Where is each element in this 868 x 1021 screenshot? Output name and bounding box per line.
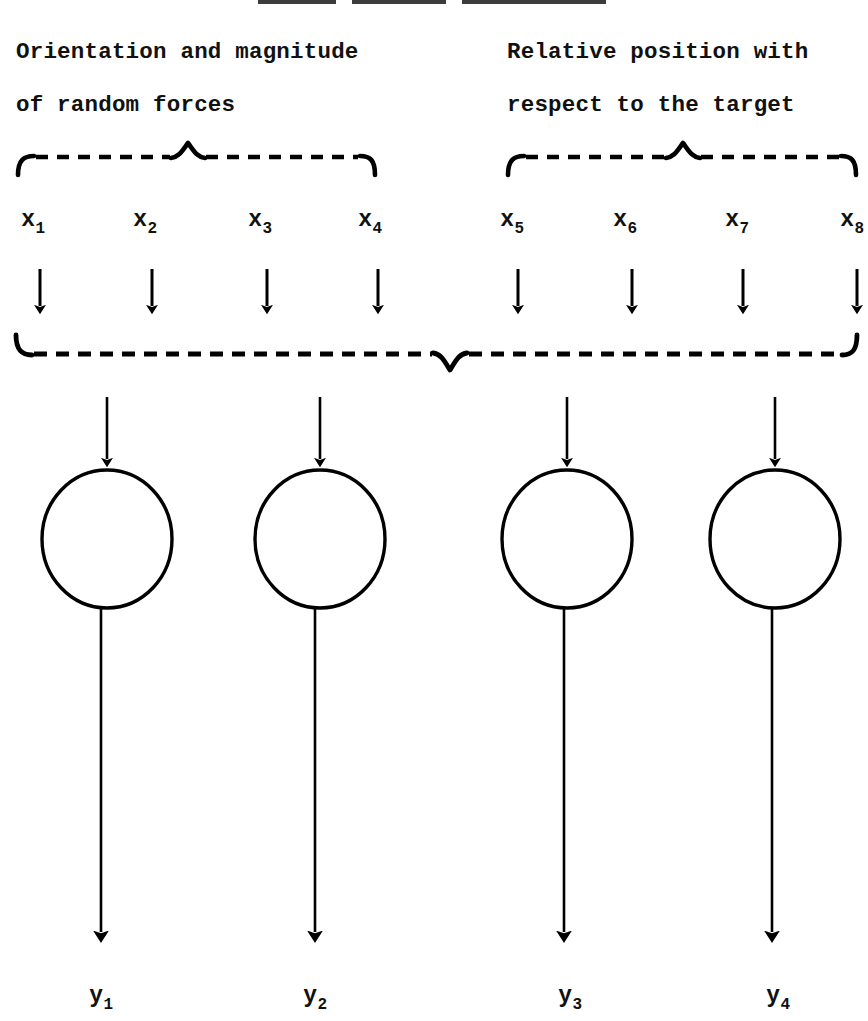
- brace-relative-position: [508, 143, 856, 175]
- network-diagram: Orientation and magnitudeof random force…: [0, 0, 868, 1021]
- node-2: [255, 397, 385, 932]
- node-3: [502, 397, 632, 932]
- node-1: [42, 397, 172, 932]
- input-arrows: [40, 269, 857, 306]
- diagram-vectors: [0, 0, 868, 1021]
- node-4: [710, 397, 840, 932]
- brace-all-inputs: [16, 335, 857, 370]
- brace-random-forces: [18, 143, 375, 175]
